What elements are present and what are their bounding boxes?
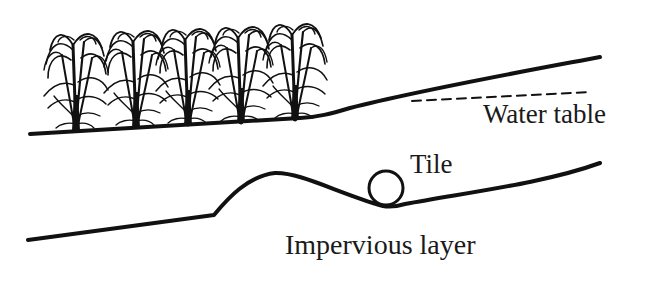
impervious-layer-label: Impervious layer — [285, 229, 476, 260]
crop-plants — [44, 24, 327, 130]
water-table-label: Water table — [483, 99, 606, 129]
crop-plant — [156, 29, 220, 125]
tile-label: Tile — [410, 149, 453, 179]
tile-drainage-diagram: Water table Tile Impervious layer — [0, 0, 648, 281]
crop-plant — [263, 24, 327, 120]
crop-plant — [44, 34, 108, 130]
crop-plant — [104, 31, 168, 127]
crop-plant — [209, 27, 273, 123]
tile-drain-icon — [369, 171, 403, 205]
